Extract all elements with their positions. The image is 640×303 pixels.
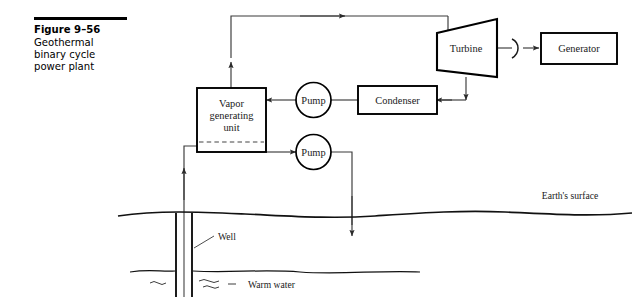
earth-surface-label: Earth's surface bbox=[542, 190, 598, 201]
well-leader-line bbox=[194, 236, 214, 248]
pipe-well-riser bbox=[184, 146, 197, 213]
vgu-label-line-3: unit bbox=[223, 122, 239, 133]
warm-water-group: Warm water bbox=[130, 271, 420, 290]
condenser[interactable]: Condenser bbox=[358, 86, 437, 114]
shaft-coupling-icon bbox=[512, 39, 518, 58]
water-squiggle-3 bbox=[203, 286, 219, 289]
generator-label: Generator bbox=[558, 43, 600, 54]
vgu-label-line-2: generating bbox=[210, 110, 254, 121]
pump-lower-label: Pump bbox=[301, 147, 325, 158]
water-squiggle-1 bbox=[150, 282, 166, 285]
earth-surface-group: Earth's surface bbox=[118, 190, 632, 217]
turbine[interactable]: Turbine bbox=[437, 19, 497, 77]
pipe-reinjection-run bbox=[331, 152, 352, 225]
condenser-label: Condenser bbox=[375, 95, 420, 106]
water-squiggle-2 bbox=[199, 280, 219, 283]
well-label: Well bbox=[218, 231, 236, 242]
figure-container: Figure 9–56 Geothermal binary cycle powe… bbox=[0, 0, 640, 303]
earth-surface-line bbox=[118, 211, 632, 217]
turbine-label: Turbine bbox=[450, 43, 483, 54]
pump-upper-label: Pump bbox=[301, 95, 325, 106]
pump-lower[interactable]: Pump bbox=[296, 135, 331, 170]
aquifer-line-left bbox=[130, 271, 175, 272]
pipe-vapor-top-run bbox=[231, 16, 448, 58]
vapor-generating-unit[interactable]: Vapor generating unit bbox=[197, 88, 266, 152]
well[interactable]: Well bbox=[176, 213, 236, 297]
pump-upper[interactable]: Pump bbox=[296, 83, 331, 118]
vgu-label-line-1: Vapor bbox=[219, 98, 244, 109]
aquifer-line-right bbox=[193, 271, 420, 273]
generator[interactable]: Generator bbox=[541, 33, 617, 64]
binary-cycle-diagram: Vapor generating unit Pump Pump Condense… bbox=[0, 0, 640, 303]
warm-water-label: Warm water bbox=[248, 279, 296, 290]
